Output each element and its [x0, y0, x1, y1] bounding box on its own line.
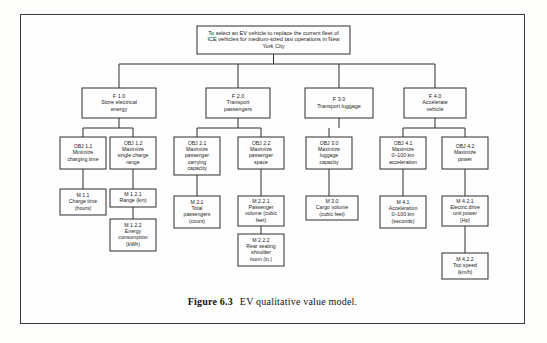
figure-frame [20, 14, 525, 324]
caption-text: EV qualitative value model. [240, 296, 357, 307]
figure-container: To select an EV vehicle to replace the c… [0, 0, 547, 343]
caption-label: Figure 6.3 [188, 296, 233, 307]
figure-caption: Figure 6.3EV qualitative value model. [20, 296, 525, 307]
